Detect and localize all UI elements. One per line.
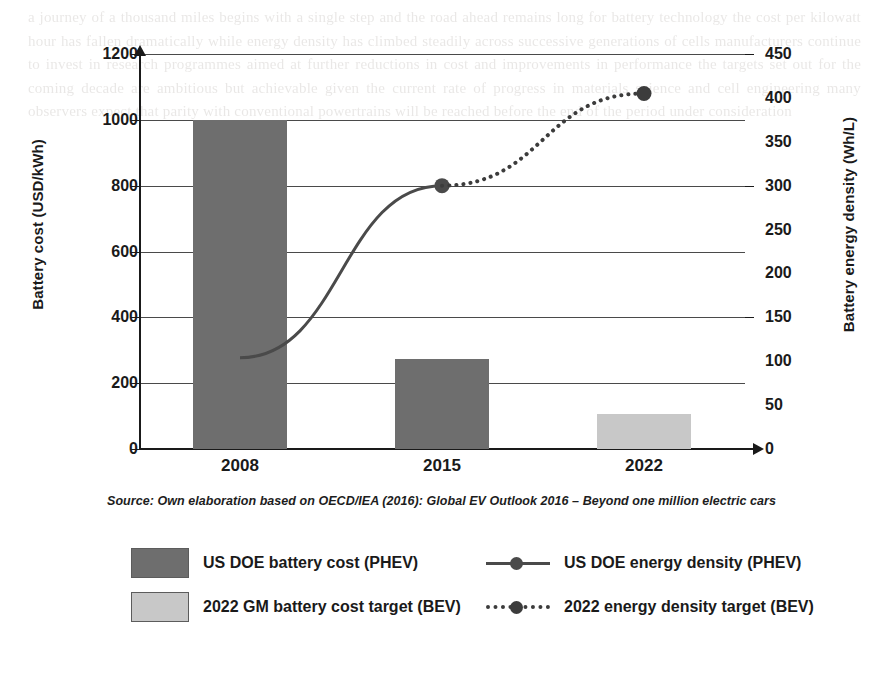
plot-area: Battery cost (USD/kWh) Battery energy de… — [0, 0, 883, 480]
x-axis-label-2022: 2022 — [584, 456, 704, 476]
y-tick-label-left: 1000 — [68, 112, 138, 128]
legend-label: US DOE battery cost (PHEV) — [203, 554, 418, 572]
y-tick-label-left: 0 — [68, 441, 138, 457]
y-tick-label-left: 200 — [68, 375, 138, 391]
y-tick-label-right: 250 — [765, 222, 835, 238]
chart-legend: US DOE battery cost (PHEV) US DOE energy… — [131, 541, 771, 629]
y-tick-mark-right — [745, 186, 754, 187]
y-tick-label-right: 450 — [765, 46, 835, 62]
line-marker — [637, 86, 652, 101]
legend-label: US DOE energy density (PHEV) — [564, 554, 801, 572]
y-tick-label-left: 1200 — [68, 46, 138, 62]
legend-item-gm-battery-cost-target: 2022 GM battery cost target (BEV) — [131, 592, 486, 622]
legend-swatch-light-gray — [131, 592, 189, 622]
x-axis-label-2008: 2008 — [180, 456, 300, 476]
y-tick-mark-right — [745, 54, 754, 55]
y-tick-label-left: 600 — [68, 244, 138, 260]
y-tick-label-right: 400 — [765, 90, 835, 106]
legend-item-us-doe-battery-cost: US DOE battery cost (PHEV) — [131, 548, 486, 578]
chart-figure: Battery cost (USD/kWh) Battery energy de… — [0, 0, 883, 673]
y-tick-label-left: 800 — [68, 178, 138, 194]
y-tick-label-right: 300 — [765, 178, 835, 194]
y-tick-label-right: 350 — [765, 134, 835, 150]
legend-item-us-doe-energy-density: US DOE energy density (PHEV) — [486, 554, 771, 572]
y-axis-title-right: Battery energy density (Wh/L) — [840, 100, 857, 350]
legend-line-dotted-icon — [486, 598, 550, 616]
y-axis-title-left: Battery cost (USD/kWh) — [29, 100, 46, 350]
line-solid — [240, 186, 442, 358]
source-note: Source: Own elaboration based on OECD/IE… — [0, 494, 883, 508]
y-tick-mark-right — [745, 317, 754, 318]
legend-label: 2022 GM battery cost target (BEV) — [203, 598, 461, 616]
x-axis-label-2015: 2015 — [382, 456, 502, 476]
line-dotted — [442, 94, 644, 186]
y-tick-label-right: 150 — [765, 309, 835, 325]
y-tick-label-right: 200 — [765, 265, 835, 281]
legend-line-solid-icon — [486, 554, 550, 572]
y-tick-label-right: 50 — [765, 397, 835, 413]
legend-item-energy-density-target: 2022 energy density target (BEV) — [486, 598, 771, 616]
x-axis-arrow-icon — [753, 443, 764, 455]
legend-label: 2022 energy density target (BEV) — [564, 598, 814, 616]
line-series-layer — [139, 54, 745, 449]
legend-swatch-dark-gray — [131, 548, 189, 578]
y-tick-label-left: 400 — [68, 309, 138, 325]
y-tick-label-right: 100 — [765, 353, 835, 369]
y-tick-label-right: 0 — [765, 441, 835, 457]
